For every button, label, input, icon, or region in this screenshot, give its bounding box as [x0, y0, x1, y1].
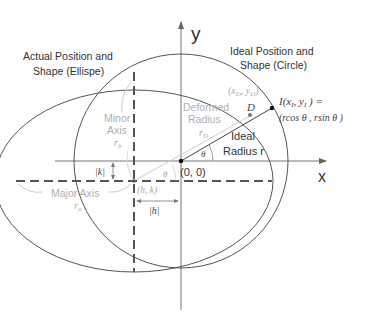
point-i-label-2: (rcos θ , rsin θ ) [279, 112, 344, 124]
deformed-radius-label-1: Deformed [183, 101, 229, 113]
ideal-shape-label-1: Ideal Position and [230, 45, 314, 57]
minor-axis-label-1: Minor [104, 112, 131, 124]
point-i [270, 106, 274, 110]
ideal-shape-label-2: Shape (Circle) [240, 59, 307, 71]
major-axis-bracket-left [18, 184, 42, 192]
minor-axis-bracket [122, 82, 131, 112]
deformed-radius-label-2: Radius [188, 113, 221, 125]
center-curve [127, 150, 134, 181]
y-axis-label: y [191, 23, 201, 44]
point-d-label: D [246, 101, 255, 113]
major-axis-bracket-right [108, 184, 131, 192]
theta-label-origin: θ [201, 149, 206, 159]
center-label: (h, k) [137, 185, 157, 196]
deformed-radius-symbol: rD [199, 127, 208, 140]
x-axis-label: x [318, 168, 326, 185]
actual-shape-label-2: Shape (Ellispe) [33, 65, 104, 77]
ideal-radius-label-2: Radius r [223, 145, 264, 157]
center-point [132, 179, 136, 183]
actual-shape-label-1: Actual Position and [23, 50, 113, 62]
minor-axis-symbol: rb [114, 137, 122, 150]
origin-point [179, 159, 183, 163]
abs-h-label: |h| [149, 205, 160, 216]
ellipse-circle-diagram: y x (0, 0) Actual Position and Shape (El… [0, 0, 369, 320]
theta-arc-center [172, 164, 176, 181]
abs-k-label: |k| [95, 166, 105, 177]
theta-arc-origin [209, 145, 213, 161]
ideal-radius-label-1: Ideal [231, 130, 255, 142]
minor-axis-label-2: Axis [107, 124, 127, 136]
point-d-coords-label: (xD, yD) [228, 85, 259, 98]
major-axis-label: Major Axis [51, 187, 99, 199]
major-axis-symbol: ra [74, 200, 82, 213]
point-i-label-1: I(xI, yI ) = [278, 95, 323, 109]
point-d [248, 113, 252, 117]
theta-label-center: θ [163, 169, 168, 179]
origin-label: (0, 0) [180, 166, 206, 178]
